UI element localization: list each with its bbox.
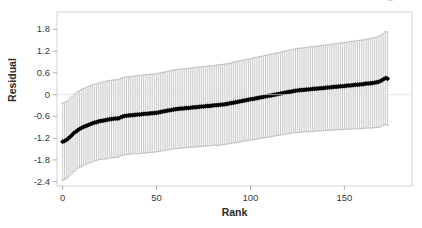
axes-group [53,12,412,190]
x-tick-label: 50 [137,192,177,203]
errorbar-group [61,0,392,180]
y-tick-label: -1.2 [8,132,50,143]
y-tick-label: -1.8 [8,154,50,165]
x-tick-label: 100 [230,192,270,203]
x-tick-label: 0 [43,192,83,203]
x-axis-title: Rank [57,206,412,218]
x-tick-label: 150 [324,192,364,203]
y-tick-label: -2.4 [8,176,50,187]
chart-figure: 1.81.20.60-0.6-1.2-1.8-2.4 050100150 Res… [0,0,422,228]
y-tick-label: 1.8 [8,23,50,34]
y-axis-title: Residual [6,44,18,116]
